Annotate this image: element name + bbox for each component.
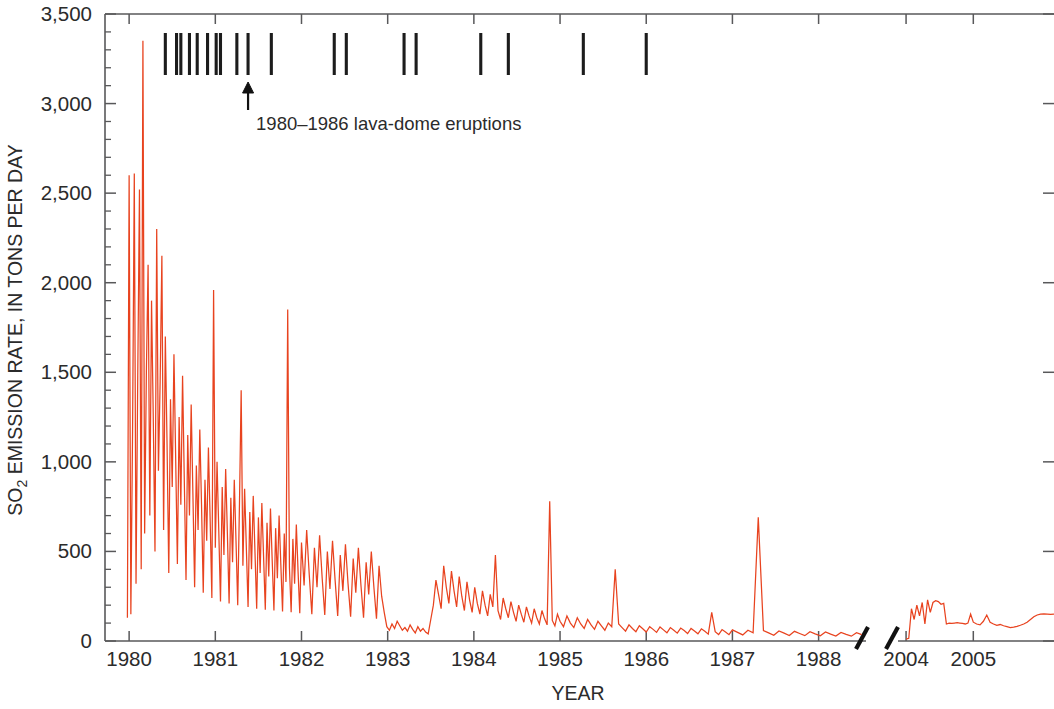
x-axis-tick-label: 1981 bbox=[193, 647, 239, 670]
x-axis-tick-label: 1984 bbox=[451, 647, 497, 670]
axis-break-mark-left bbox=[856, 627, 868, 649]
x-axis-tick-label: 1987 bbox=[710, 647, 756, 670]
y-axis-tick-label: 1,000 bbox=[41, 450, 92, 473]
x-axis-tick-label: 2005 bbox=[951, 647, 997, 670]
x-axis-tick-label: 1986 bbox=[623, 647, 669, 670]
y-axis-tick-label: 500 bbox=[58, 539, 92, 562]
chart-canvas: 05001,0001,5002,0002,5003,0003,500198019… bbox=[0, 0, 1054, 709]
x-axis-tick-label: 1983 bbox=[365, 647, 411, 670]
x-axis-tick-label: 1980 bbox=[106, 647, 152, 670]
eruption-annotation-label: 1980–1986 lava-dome eruptions bbox=[256, 113, 521, 134]
y-axis-tick-label: 0 bbox=[81, 629, 92, 652]
x-axis-tick-label: 2004 bbox=[883, 647, 929, 670]
eruption-events-group bbox=[165, 33, 646, 110]
y-axis-tick-label: 2,500 bbox=[41, 181, 92, 204]
y-axis-tick-label: 3,500 bbox=[41, 2, 92, 25]
x-axis-tick-label: 1988 bbox=[796, 647, 842, 670]
so2-emission-line-2004-2006 bbox=[906, 600, 1054, 639]
annotation-arrow-head bbox=[243, 82, 254, 93]
axis-break-mark-right bbox=[886, 627, 898, 649]
y-axis-tick-label: 3,000 bbox=[41, 92, 92, 115]
x-axis-title: YEAR bbox=[551, 682, 604, 704]
x-axis-tick-label: 1985 bbox=[537, 647, 583, 670]
y-axis-tick-label: 1,500 bbox=[41, 360, 92, 383]
so2-emission-rate-figure: 05001,0001,5002,0002,5003,0003,500198019… bbox=[0, 0, 1054, 709]
x-axis-tick-label: 1982 bbox=[279, 647, 325, 670]
y-axis-title: SO2 EMISSION RATE, IN TONS PER DAY bbox=[4, 144, 30, 516]
y-axis-tick-label: 2,000 bbox=[41, 271, 92, 294]
